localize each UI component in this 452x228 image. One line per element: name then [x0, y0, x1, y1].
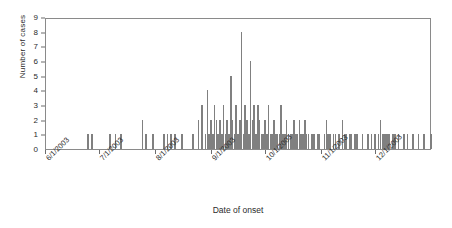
y-tick-label: 0 [24, 146, 38, 154]
bar [87, 134, 89, 149]
y-tick-mark [41, 18, 45, 19]
y-tick-mark [41, 106, 45, 107]
y-tick-mark [41, 47, 45, 48]
x-axis-title: Date of onset [45, 205, 431, 215]
y-tick-mark [41, 120, 45, 121]
y-tick-mark [41, 76, 45, 77]
y-tick-label: 8 [24, 29, 38, 37]
y-tick-label: 2 [24, 117, 38, 125]
bar [423, 134, 425, 149]
bar [142, 120, 144, 149]
y-tick-mark [41, 62, 45, 63]
bar [192, 134, 194, 149]
bar [241, 32, 243, 149]
y-tick-label: 3 [24, 102, 38, 110]
y-tick-mark [41, 32, 45, 33]
bar [308, 134, 310, 149]
plot-frame [45, 18, 431, 150]
y-tick-label: 5 [24, 73, 38, 81]
bar [371, 134, 373, 149]
bar [356, 134, 358, 149]
y-tick-label: 1 [24, 131, 38, 139]
bar [407, 134, 409, 149]
y-tick-label: 6 [24, 58, 38, 66]
y-tick-label: 4 [24, 87, 38, 95]
bar [145, 134, 147, 149]
epi-curve-chart: Number of cases 0123456789 Date of onset… [0, 0, 452, 228]
bar [351, 134, 353, 149]
bar [362, 134, 364, 149]
bar [418, 134, 420, 149]
bar [198, 120, 200, 149]
y-tick-mark [41, 91, 45, 92]
bar [91, 134, 93, 149]
bar [412, 134, 414, 149]
bar [152, 134, 154, 149]
y-axis-tick-labels: 0123456789 [24, 12, 38, 152]
bar [430, 134, 432, 149]
y-tick-mark [41, 135, 45, 136]
bar [201, 105, 203, 149]
y-tick-label: 7 [24, 43, 38, 51]
bar [313, 134, 315, 149]
plot-area [46, 19, 430, 149]
bar [367, 134, 369, 149]
bar [181, 134, 183, 149]
bar [403, 134, 405, 149]
bar [374, 134, 376, 149]
bar [318, 134, 320, 149]
y-tick-label: 9 [24, 14, 38, 22]
